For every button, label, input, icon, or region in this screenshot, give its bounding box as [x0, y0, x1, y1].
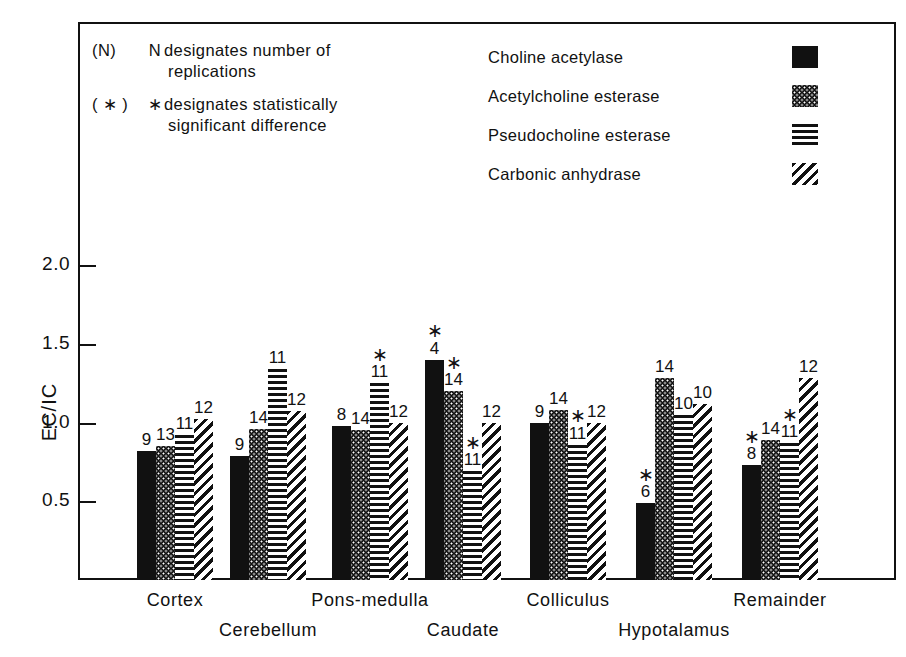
replication-count: 11	[176, 414, 194, 433]
bar: 12	[194, 419, 213, 580]
bar: 12	[799, 378, 818, 580]
bar-annotation: 12	[576, 403, 618, 420]
bar: 11	[268, 369, 287, 580]
plot-area: 91311129141112814∗1112∗4∗14∗1112914∗1112…	[78, 22, 896, 580]
bar: 11	[175, 435, 194, 580]
replication-count: 13	[156, 425, 175, 444]
replication-count: 12	[482, 402, 501, 421]
x-axis-label: Remainder	[733, 590, 826, 611]
bar: ∗11	[370, 383, 389, 580]
bar: 14	[549, 410, 568, 580]
significance-star: ∗	[414, 323, 456, 339]
y-tick-label: 2.0	[8, 253, 70, 275]
replication-count: 8	[747, 444, 756, 463]
bar: 9	[137, 451, 156, 580]
bar: ∗14	[444, 391, 463, 580]
x-axis-label: Pons-medulla	[311, 590, 428, 611]
replication-count: 11	[781, 422, 799, 441]
bar: 14	[351, 430, 370, 580]
bar-annotation: 14	[750, 420, 792, 437]
x-axis-label: Colliculus	[526, 590, 609, 611]
bar: 14	[761, 440, 780, 580]
x-axis-label: Cortex	[147, 590, 204, 611]
y-tick-label: 1.0	[8, 411, 70, 433]
bar-group: 9131112	[137, 22, 213, 580]
y-tick-label: 0.5	[8, 489, 70, 511]
replication-count: 11	[569, 424, 587, 443]
bar: 12	[587, 423, 606, 581]
x-axis-labels: CortexCerebellumPons-medullaCaudateColli…	[0, 588, 906, 654]
bar: 12	[389, 423, 408, 581]
replication-count: 11	[371, 362, 389, 381]
replication-count: 9	[535, 402, 544, 421]
x-axis-label: Hypotalamus	[618, 620, 730, 641]
y-tick-label: 1.5	[8, 332, 70, 354]
bar: ∗11	[780, 443, 799, 580]
replication-count: 12	[587, 402, 606, 421]
bar: 13	[156, 446, 175, 580]
replication-count: 14	[444, 370, 463, 389]
replication-count: 10	[693, 383, 712, 402]
bar: 12	[287, 411, 306, 580]
bar-group: 814∗1112	[332, 22, 408, 580]
replication-count: 10	[674, 394, 693, 413]
replication-count: 8	[337, 405, 346, 424]
replication-count: 12	[194, 398, 213, 417]
bar: ∗11	[568, 445, 587, 580]
bar: 10	[674, 415, 693, 580]
bar: 14	[249, 429, 268, 580]
replication-count: 9	[235, 435, 244, 454]
replication-count: 11	[464, 450, 482, 469]
bar-group: 9141112	[230, 22, 306, 580]
bar-group: ∗814∗1112	[742, 22, 818, 580]
bar-annotation: 10	[682, 384, 724, 401]
bar: 14	[655, 378, 674, 580]
bar-chart-figure: EC/IC 2.01.51.00.5 (N)Ndesignates number…	[0, 0, 906, 657]
bar-annotation: 12	[788, 358, 830, 375]
bar-annotation: ∗4	[414, 323, 456, 356]
replication-count: 14	[351, 409, 370, 428]
replication-count: 11	[269, 348, 287, 367]
bar: 9	[530, 423, 549, 581]
bar-annotation: 8	[321, 406, 363, 423]
bar-group: 914∗1112	[530, 22, 606, 580]
x-axis-label: Cerebellum	[219, 620, 317, 641]
bar: ∗8	[742, 465, 761, 580]
bar: 10	[693, 404, 712, 580]
replication-count: 4	[430, 339, 439, 358]
bar-annotation: 14	[644, 358, 686, 375]
replication-count: 14	[761, 419, 780, 438]
x-axis-label: Caudate	[427, 620, 499, 641]
replication-count: 12	[799, 357, 818, 376]
bar: 8	[332, 426, 351, 580]
replication-count: 14	[655, 357, 674, 376]
replication-count: 14	[249, 408, 268, 427]
bar: ∗4	[425, 360, 444, 581]
bar-annotation: 12	[471, 403, 513, 420]
bar: ∗11	[463, 471, 482, 580]
bar-group: ∗6141010	[636, 22, 712, 580]
replication-count: 12	[287, 390, 306, 409]
bar: 9	[230, 456, 249, 580]
bar-annotation: 14	[538, 390, 580, 407]
bar-group: ∗4∗14∗1112	[425, 22, 501, 580]
bar-annotation: ∗11	[359, 347, 401, 380]
significance-star: ∗	[359, 347, 401, 363]
bar: 12	[482, 423, 501, 581]
bar-annotation: 11	[257, 349, 299, 366]
replication-count: 6	[641, 482, 650, 501]
bar: ∗6	[636, 503, 655, 580]
replication-count: 14	[549, 389, 568, 408]
bar-annotation: 12	[183, 399, 225, 416]
replication-count: 12	[389, 402, 408, 421]
replication-count: 9	[142, 430, 151, 449]
